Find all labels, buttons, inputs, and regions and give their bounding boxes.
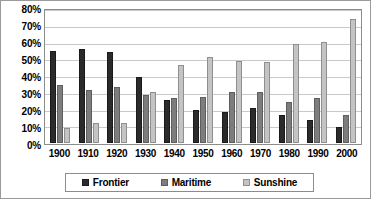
bar [150, 92, 156, 143]
legend-entry: Frontier [82, 177, 129, 188]
bar-group [46, 11, 75, 143]
bar [136, 77, 142, 143]
bar [121, 123, 127, 143]
bar-group [274, 11, 303, 143]
bars-layer [46, 11, 360, 143]
bar [164, 100, 170, 143]
y-tick-label: 70% [22, 21, 41, 32]
bar [50, 51, 56, 143]
bar [236, 61, 242, 144]
y-tick-label: 0% [27, 140, 41, 151]
bar [293, 44, 299, 143]
bar-chart-figure: 0%10%20%30%40%50%60%70%80% 1900191019201… [0, 0, 371, 199]
bar [257, 92, 263, 143]
x-tick-label: 1950 [189, 148, 218, 159]
x-tick-label: 2000 [332, 148, 361, 159]
bar-group [75, 11, 104, 143]
y-tick-label: 60% [22, 38, 41, 49]
bar [229, 92, 235, 143]
bar-group [246, 11, 275, 143]
bar [222, 112, 228, 143]
x-tick-label: 1900 [45, 148, 74, 159]
x-tick-label: 1910 [74, 148, 103, 159]
bar [171, 98, 177, 143]
bar [250, 108, 256, 143]
bar [79, 49, 85, 143]
x-tick-label: 1970 [246, 148, 275, 159]
bar [314, 98, 320, 143]
chart-legend: FrontierMaritimeSunshine [65, 173, 314, 192]
bar-group [132, 11, 161, 143]
x-tick-label: 1930 [131, 148, 160, 159]
bar [193, 110, 199, 143]
y-tick-label: 20% [22, 106, 41, 117]
y-tick-label: 80% [22, 4, 41, 15]
x-tick-label: 1960 [217, 148, 246, 159]
bar-group [331, 11, 360, 143]
legend-label: Maritime [172, 177, 212, 188]
bar [178, 65, 184, 143]
bar [343, 115, 349, 143]
bar [93, 123, 99, 143]
y-tick-label: 10% [22, 123, 41, 134]
bar [264, 62, 270, 143]
legend-entry: Maritime [161, 177, 212, 188]
bar [114, 87, 120, 143]
y-axis: 0%10%20%30%40%50%60%70%80% [1, 9, 41, 145]
bar-group [217, 11, 246, 143]
x-tick-label: 1940 [160, 148, 189, 159]
bar-group [303, 11, 332, 143]
bar [107, 52, 113, 143]
bar [350, 19, 356, 143]
bar-group [160, 11, 189, 143]
bar [143, 95, 149, 143]
bar [57, 85, 63, 143]
legend-entry: Sunshine [243, 177, 297, 188]
y-tick-label: 50% [22, 55, 41, 66]
legend-swatch-icon [161, 179, 168, 186]
bar [64, 128, 70, 143]
bar [200, 97, 206, 143]
bar [307, 120, 313, 143]
bar-group [103, 11, 132, 143]
bar [286, 102, 292, 143]
legend-label: Frontier [93, 177, 129, 188]
bar [86, 90, 92, 143]
bar-group [189, 11, 218, 143]
bar [321, 42, 327, 143]
bar [207, 57, 213, 143]
legend-swatch-icon [82, 179, 89, 186]
x-tick-label: 1980 [275, 148, 304, 159]
y-tick-label: 40% [22, 72, 41, 83]
legend-swatch-icon [243, 179, 250, 186]
x-tick-label: 1990 [304, 148, 333, 159]
x-tick-label: 1920 [102, 148, 131, 159]
bar [279, 115, 285, 143]
plot-area [44, 9, 362, 145]
bar [336, 127, 342, 144]
y-tick-label: 30% [22, 89, 41, 100]
legend-label: Sunshine [254, 177, 297, 188]
x-axis: 1900191019201930194019501960197019801990… [45, 148, 361, 159]
